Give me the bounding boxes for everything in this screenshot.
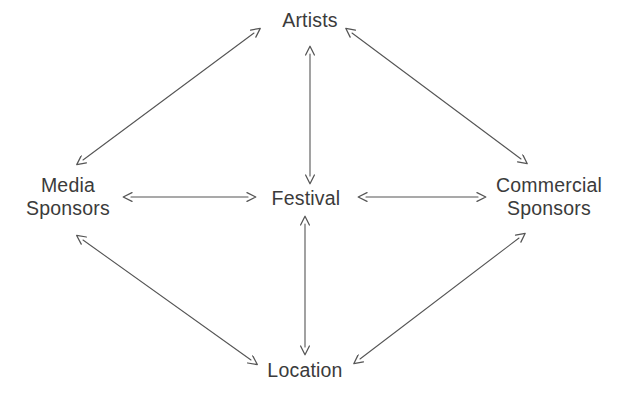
node-label-commercial-sponsors: CommercialSponsors	[496, 174, 602, 220]
node-label-line: Sponsors	[496, 197, 602, 220]
edge-artists-commercial-sponsors	[352, 33, 521, 159]
edge-media-sponsors-location	[83, 240, 251, 360]
edge-media-sponsors-artists	[83, 33, 254, 160]
node-label-line: Sponsors	[26, 197, 110, 220]
node-label-location: Location	[267, 359, 342, 382]
node-label-artists: Artists	[282, 9, 338, 32]
node-label-festival: Festival	[272, 187, 341, 210]
node-label-line: Media	[26, 174, 110, 197]
node-label-line: Commercial	[496, 174, 602, 197]
diagram-canvas: Artists MediaSponsors Festival Commercia…	[0, 0, 620, 395]
node-label-media-sponsors: MediaSponsors	[26, 174, 110, 220]
node-label-line: Location	[267, 359, 342, 382]
edge-location-commercial-sponsors	[360, 238, 519, 359]
node-label-line: Artists	[282, 9, 338, 32]
node-label-line: Festival	[272, 187, 341, 210]
